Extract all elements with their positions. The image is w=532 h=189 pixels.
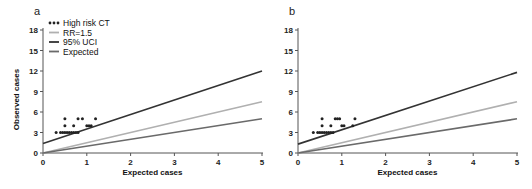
x-tick-label: 5 <box>260 158 265 167</box>
data-point <box>321 124 324 127</box>
x-tick-label: 2 <box>383 158 388 167</box>
y-tick-label: 18 <box>284 26 293 35</box>
y-tick-label: 3 <box>34 129 39 138</box>
y-tick-label: 12 <box>29 67 38 76</box>
legend-label: High risk CT <box>63 18 110 28</box>
legend-label: RR=1.5 <box>63 28 92 38</box>
x-tick-label: 0 <box>296 158 301 167</box>
x-axis-label: Expected cases <box>122 168 183 177</box>
data-point <box>353 117 356 120</box>
data-point <box>338 117 341 120</box>
data-point <box>63 117 66 120</box>
legend-marker-icon <box>57 22 60 25</box>
x-tick-label: 1 <box>85 158 90 167</box>
data-point <box>321 117 324 120</box>
series-line-expected <box>43 119 262 153</box>
data-point <box>72 124 75 127</box>
figure: a0369121518012345Expected casesObserved … <box>0 0 532 189</box>
panel-a: a0369121518012345Expected casesObserved … <box>12 5 265 177</box>
series-line-rr-1-5 <box>43 102 262 153</box>
panel-b: b0369121518012345Expected cases <box>284 5 520 177</box>
y-tick-label: 15 <box>29 47 38 56</box>
x-tick-label: 5 <box>515 158 520 167</box>
data-point <box>55 131 58 134</box>
series-line-expected <box>298 119 517 153</box>
y-tick-label: 18 <box>29 26 38 35</box>
data-point <box>77 131 80 134</box>
y-axis-label: Observed cases <box>12 68 21 130</box>
panel-label: a <box>34 5 41 17</box>
y-tick-label: 0 <box>289 149 294 158</box>
y-tick-label: 6 <box>34 108 39 117</box>
y-tick-label: 6 <box>289 108 294 117</box>
x-tick-label: 4 <box>471 158 476 167</box>
data-point <box>94 117 97 120</box>
legend-label: Expected <box>63 47 99 57</box>
data-point <box>329 124 332 127</box>
data-point <box>312 131 315 134</box>
x-tick-label: 4 <box>216 158 221 167</box>
data-point <box>63 124 66 127</box>
series-line-rr-1-5 <box>298 102 517 153</box>
x-tick-label: 0 <box>41 158 46 167</box>
y-tick-label: 15 <box>284 47 293 56</box>
legend-marker-icon <box>53 22 56 25</box>
y-tick-label: 0 <box>34 149 39 158</box>
legend: High risk CTRR=1.595% UCIExpected <box>49 18 110 57</box>
y-tick-label: 9 <box>34 88 39 97</box>
x-tick-label: 1 <box>340 158 345 167</box>
data-point <box>332 131 335 134</box>
panel-label: b <box>289 5 295 17</box>
y-tick-label: 12 <box>284 67 293 76</box>
legend-label: 95% UCI <box>63 37 97 47</box>
legend-marker-icon <box>49 22 52 25</box>
x-axis-label: Expected cases <box>377 168 438 177</box>
data-point <box>342 124 345 127</box>
x-tick-label: 2 <box>128 158 133 167</box>
data-point <box>351 124 354 127</box>
data-point <box>90 124 93 127</box>
x-tick-label: 3 <box>172 158 177 167</box>
y-tick-label: 3 <box>289 129 294 138</box>
data-point <box>77 117 80 120</box>
data-point <box>81 117 84 120</box>
y-tick-label: 9 <box>289 88 294 97</box>
x-tick-label: 3 <box>427 158 432 167</box>
